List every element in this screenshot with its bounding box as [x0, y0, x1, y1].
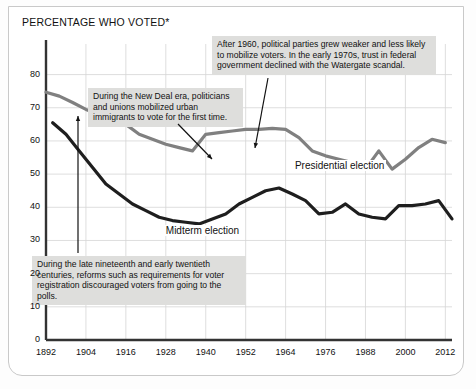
series-label-presidential: Presidential election	[293, 160, 387, 171]
y-tick-label: 50	[18, 168, 40, 178]
x-tick-label: 1892	[26, 347, 66, 357]
x-tick-label: 1916	[106, 347, 146, 357]
x-tick-label: 1988	[345, 347, 385, 357]
y-tick-label: 60	[18, 135, 40, 145]
x-tick-label: 2012	[425, 347, 465, 357]
y-tick-label: 10	[18, 301, 40, 311]
y-tick-label: 0	[18, 334, 40, 344]
x-tick-label: 1904	[66, 347, 106, 357]
x-tick-label: 1928	[146, 347, 186, 357]
y-tick-label: 40	[18, 201, 40, 211]
series-label-midterm: Midterm election	[164, 225, 241, 236]
x-tick-label: 2000	[385, 347, 425, 357]
x-tick-label: 1976	[306, 347, 346, 357]
x-tick-label: 1964	[266, 347, 306, 357]
y-tick-label: 30	[18, 234, 40, 244]
y-tick-label: 20	[18, 268, 40, 278]
figure-container: PERCENTAGE WHO VOTED* Presidential elect…	[0, 0, 476, 389]
x-tick-label: 1952	[226, 347, 266, 357]
annotation-late-nineteenth: During the late nineteenth and early twe…	[32, 256, 246, 305]
annotation-new-deal: During the New Deal era, politicians and…	[88, 88, 243, 127]
x-tick-label: 1940	[186, 347, 226, 357]
annotation-after-1960: After 1960, political parties grew weake…	[212, 36, 436, 75]
y-tick-label: 70	[18, 102, 40, 112]
y-tick-label: 80	[18, 69, 40, 79]
